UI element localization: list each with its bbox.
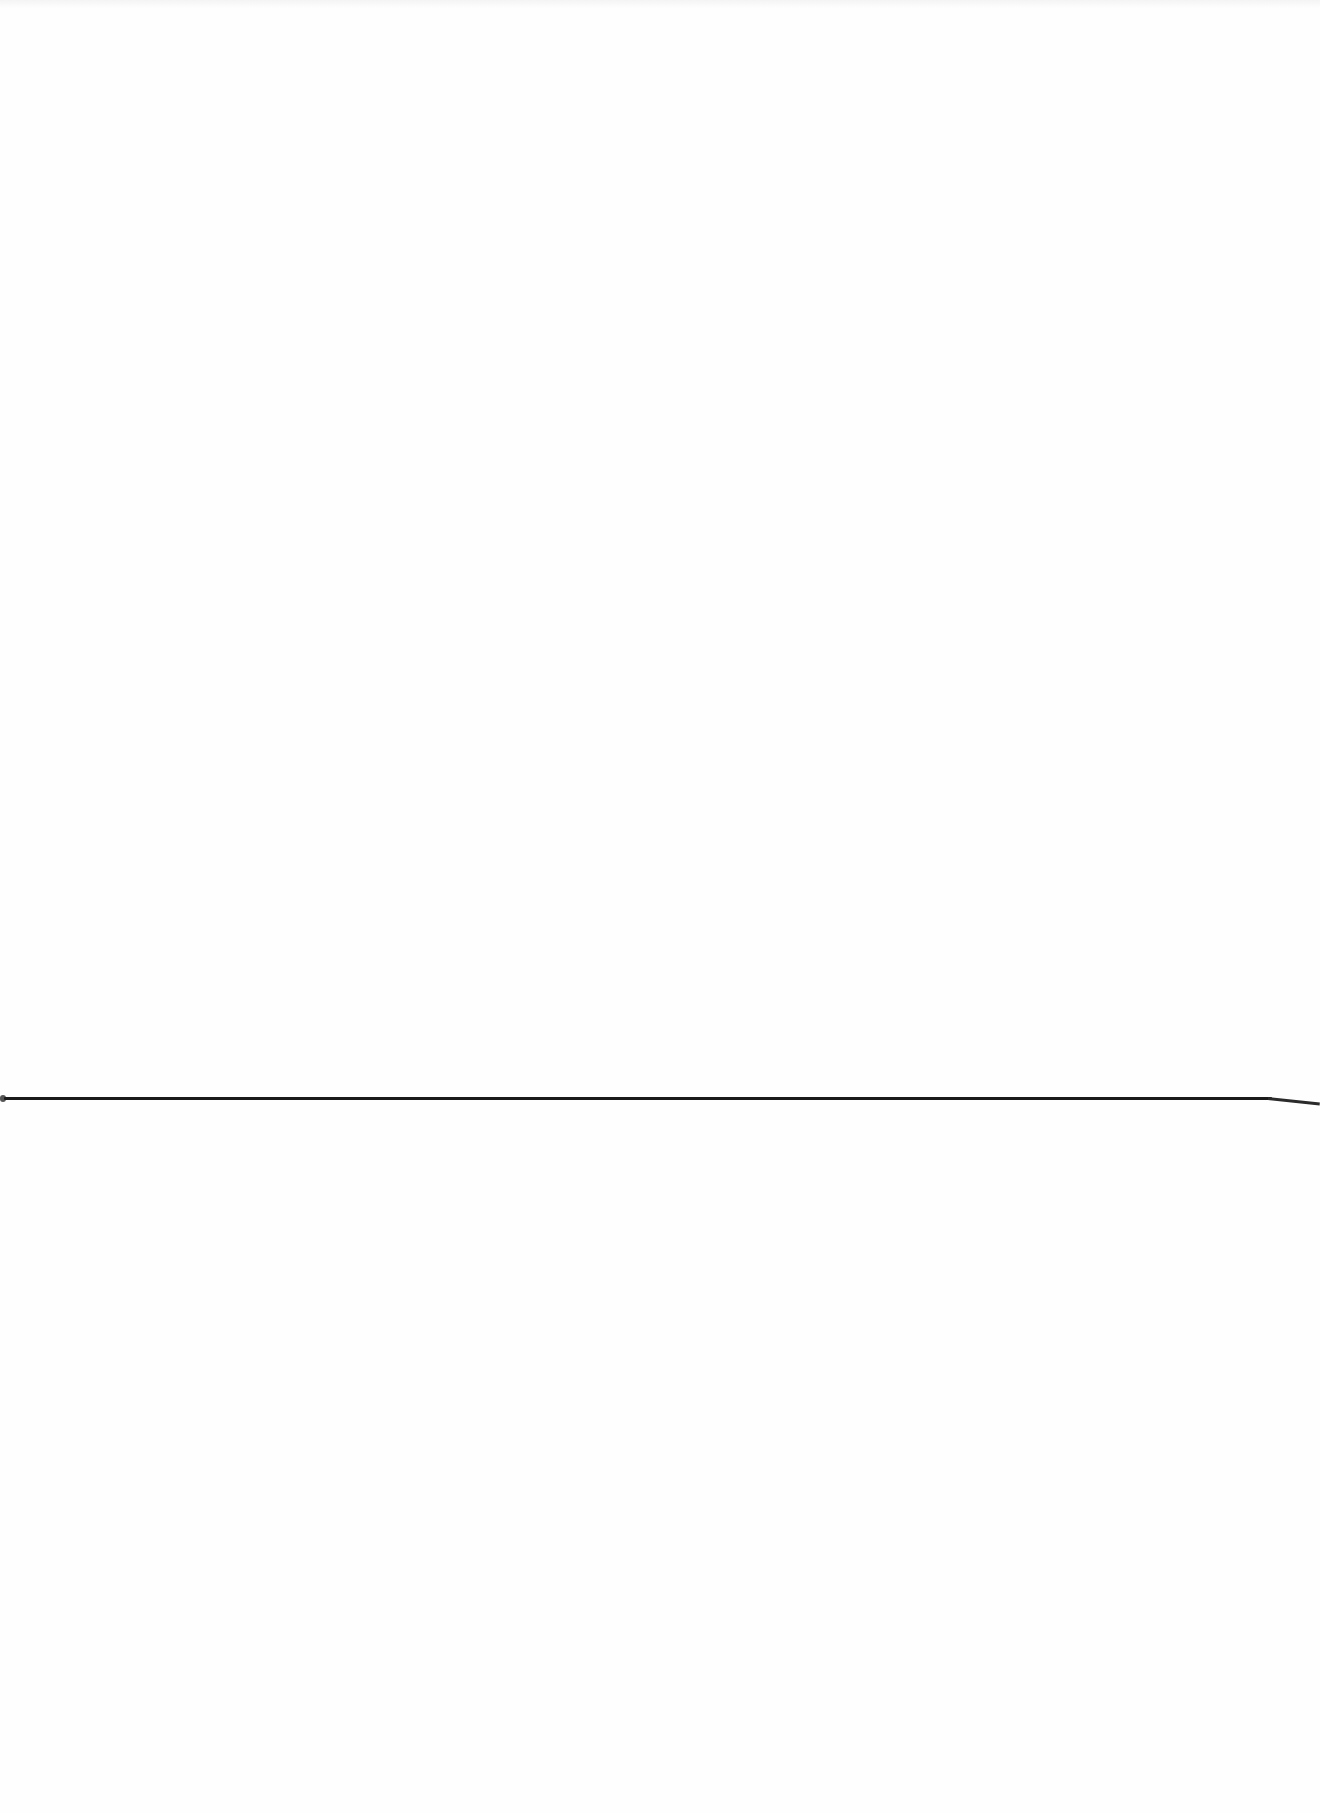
scanned-page: [0, 0, 1320, 1813]
horizontal-rule: [4, 1097, 1272, 1100]
horizontal-rule-tail: [1268, 1097, 1320, 1105]
page-top-edge-shadow: [0, 0, 1320, 8]
